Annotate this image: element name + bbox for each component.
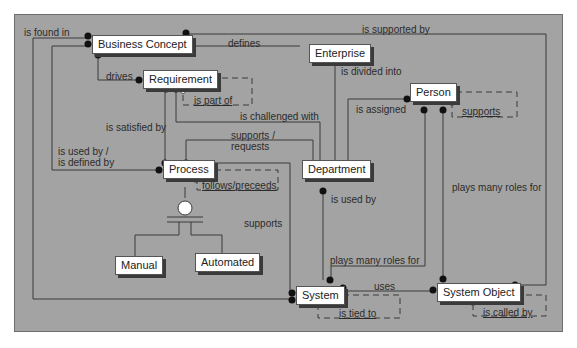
label-supports-requests-1: supports / xyxy=(231,130,275,141)
entity-automated[interactable]: Automated xyxy=(195,253,260,272)
subtype-circle xyxy=(178,201,192,215)
label-is-assigned: is assigned xyxy=(356,104,406,115)
label-is-supported-by: is supported by xyxy=(362,24,430,35)
label-is-used-by-dept: is used by xyxy=(331,194,376,205)
label-is-tied-to: is tied to xyxy=(339,308,376,319)
entity-department[interactable]: Department xyxy=(302,160,371,179)
label-is-divided-into: is divided into xyxy=(341,66,402,77)
label-is-found-in: is found in xyxy=(24,27,70,38)
entity-business-concept[interactable]: Business Concept xyxy=(92,35,193,54)
label-is-used-by-2: is defined by xyxy=(58,157,114,168)
entity-system-object[interactable]: System Object xyxy=(437,283,521,302)
label-supports-person: supports xyxy=(462,106,500,117)
label-plays-roles-object: plays many roles for xyxy=(452,182,541,193)
entity-requirement[interactable]: Requirement xyxy=(143,70,218,89)
label-is-used-by-1: is used by / xyxy=(58,146,109,157)
label-is-called-by: is called by xyxy=(483,307,532,318)
entity-system[interactable]: System xyxy=(296,286,345,305)
entity-manual[interactable]: Manual xyxy=(115,256,163,275)
entity-enterprise[interactable]: Enterprise xyxy=(309,44,371,63)
label-drives: drives xyxy=(106,71,133,82)
label-uses: uses xyxy=(374,281,395,292)
label-is-challenged-with: is challenged with xyxy=(240,111,319,122)
label-defines: defines xyxy=(228,38,260,49)
label-plays-roles-system: plays many roles for xyxy=(330,255,419,266)
label-supports-system: supports xyxy=(244,218,282,229)
label-is-satisfied-by: is satisfied by xyxy=(106,122,166,133)
entity-person[interactable]: Person xyxy=(410,83,457,102)
label-follows-preceeds: follows/preceeds xyxy=(202,180,276,191)
entity-process[interactable]: Process xyxy=(163,160,215,179)
label-is-part-of: is part of xyxy=(194,95,232,106)
label-supports-requests-2: requests xyxy=(231,141,269,152)
